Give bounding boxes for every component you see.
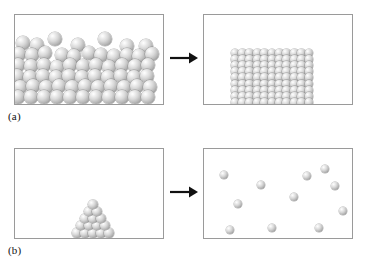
right-arrow-icon [168,48,200,68]
particle-sphere [76,90,90,104]
particle-sphere [234,200,243,209]
particle-sphere [220,171,229,180]
disordered-dense-particles-panel [14,14,164,105]
particle-sphere [290,193,299,202]
particle-sphere [48,32,62,46]
particle-sphere [268,224,277,233]
ordered-crystal-lattice-panel [203,14,353,105]
particle-sphere [88,200,97,209]
particle-sphere [24,90,38,104]
particle-sphere [102,90,116,104]
figure-row-a: (a) [0,0,367,134]
particle-sphere [257,181,266,190]
particle-sphere [321,165,330,174]
particle-sphere [63,90,77,104]
particle-sphere [141,90,155,104]
particle-sphere [303,172,312,181]
dispersed-gas-particles-panel [203,148,353,239]
particle-sphere [226,226,235,235]
particle-sphere [115,90,129,104]
ordered-pyramid-stack-panel [14,148,164,239]
particle-sphere [315,224,324,233]
particle-sphere [339,207,348,216]
right-arrow-icon [168,182,200,202]
particle-sphere [128,90,142,104]
caption-b: (b) [8,244,21,256]
caption-a: (a) [8,110,21,122]
particle-sphere [37,90,51,104]
particle-sphere [50,90,64,104]
particle-sphere [331,182,340,191]
particle-sphere [305,98,314,105]
particle-sphere [98,32,112,46]
figure-row-b: (b) [0,134,367,268]
particle-arrangement-figure: (a) (b) [0,0,367,268]
particle-sphere [89,90,103,104]
